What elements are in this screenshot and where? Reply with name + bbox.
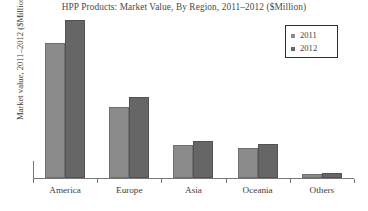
bar[interactable]: [45, 43, 65, 178]
x-tick-label: Europe: [97, 185, 161, 195]
y-axis-label: Market value, 2011–2012 ($Million): [15, 0, 25, 132]
x-axis-tick: [97, 179, 98, 183]
legend-item-2012[interactable]: 2012: [291, 42, 337, 55]
legend-item-2011[interactable]: 2011: [291, 29, 337, 42]
bar[interactable]: [109, 107, 129, 178]
chart-legend: 2011 2012: [285, 25, 338, 58]
x-axis-tick: [354, 179, 355, 183]
legend-swatch-icon: [291, 34, 295, 38]
bar[interactable]: [258, 144, 278, 178]
bar-group: [238, 16, 278, 178]
x-axis-tick: [33, 179, 34, 183]
chart-title: HPP Products: Market Value, By Region, 2…: [0, 2, 368, 12]
bar[interactable]: [193, 141, 213, 178]
x-axis-tick-labels: AmericaEuropeAsiaOceaniaOthers: [33, 185, 354, 195]
x-axis-tick: [226, 179, 227, 183]
chart-figure: HPP Products: Market Value, By Region, 2…: [0, 0, 368, 211]
bar-group: [45, 16, 85, 178]
x-axis-line: [33, 178, 354, 179]
bar-group: [109, 16, 149, 178]
x-axis-tick: [161, 179, 162, 183]
bar[interactable]: [129, 97, 149, 178]
bar[interactable]: [173, 145, 193, 178]
x-tick-label: Others: [290, 185, 354, 195]
bar-group: [173, 16, 213, 178]
bar[interactable]: [238, 148, 258, 178]
legend-swatch-icon: [291, 47, 295, 51]
legend-label: 2011: [300, 31, 317, 40]
y-axis-line: [33, 161, 34, 179]
x-tick-label: America: [33, 185, 97, 195]
x-axis-tick: [290, 179, 291, 183]
legend-label: 2012: [300, 44, 317, 53]
bar[interactable]: [65, 20, 85, 178]
x-tick-label: Asia: [161, 185, 225, 195]
x-tick-label: Oceania: [226, 185, 290, 195]
